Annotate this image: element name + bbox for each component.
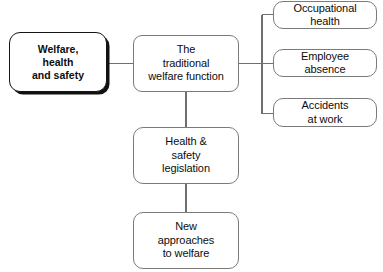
node-label: Accidents at work xyxy=(299,99,352,126)
node-label: Employee absence xyxy=(298,50,352,77)
node-label: Occupational health xyxy=(290,2,359,29)
node-label: Welfare, health and safety xyxy=(29,43,87,82)
node-welfare-health-and-safety[interactable]: Welfare, health and safety xyxy=(9,32,107,92)
node-new-approaches-to-welfare[interactable]: New approaches to welfare xyxy=(133,212,239,269)
diagram-canvas: Welfare, health and safety The tradition… xyxy=(0,0,383,272)
node-traditional-welfare-function[interactable]: The traditional welfare function xyxy=(133,35,239,92)
node-label: New approaches to welfare xyxy=(155,220,218,261)
node-employee-absence[interactable]: Employee absence xyxy=(273,49,377,77)
node-occupational-health[interactable]: Occupational health xyxy=(273,1,377,29)
node-label: The traditional welfare function xyxy=(145,43,226,84)
node-label: Health & safety legislation xyxy=(159,135,213,176)
node-accidents-at-work[interactable]: Accidents at work xyxy=(273,98,377,127)
node-health-and-safety-legislation[interactable]: Health & safety legislation xyxy=(133,127,239,184)
